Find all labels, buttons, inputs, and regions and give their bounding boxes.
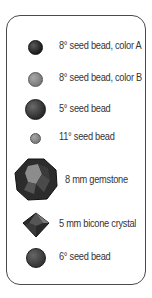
bead-legend: 8° seed bead, color A 8° seed bead, colo… (6, 15, 146, 285)
faceted-gemstone-icon (14, 158, 58, 202)
bicone-crystal-icon (21, 212, 51, 238)
legend-item: 5 mm bicone crystal (7, 212, 147, 242)
legend-item: 5° seed bead (7, 98, 147, 128)
legend-label: 5 mm bicone crystal (59, 217, 136, 229)
small-gray-round-bead-icon (30, 133, 41, 144)
legend-label: 11° seed bead (59, 130, 115, 142)
medium-dark-round-bead-icon (26, 248, 46, 268)
legend-item: 8° seed bead, color A (7, 39, 147, 69)
legend-label: 8 mm gemstone (65, 173, 128, 185)
dark-round-bead-icon (28, 40, 43, 55)
legend-item: 8° seed bead, color B (7, 71, 147, 101)
legend-item: 6° seed bead (7, 248, 147, 278)
legend-label: 6° seed bead (59, 250, 110, 262)
legend-label: 8° seed bead, color B (59, 71, 142, 83)
large-dark-round-bead-icon (25, 99, 46, 120)
legend-label: 8° seed bead, color A (59, 39, 141, 51)
legend-item: 8 mm gemstone (7, 158, 147, 204)
legend-label: 5° seed bead (59, 102, 110, 114)
gray-round-bead-icon (28, 72, 43, 87)
